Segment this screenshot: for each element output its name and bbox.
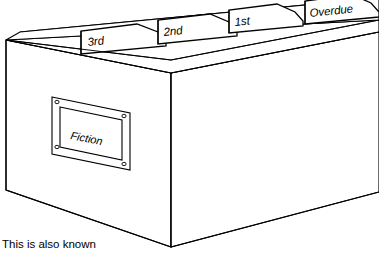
- divider-1st-label: 1st: [234, 14, 251, 28]
- divider-3rd-label: 3rd: [87, 34, 105, 48]
- file-box-drawing: 3rd 2nd 1st Overdue: [0, 0, 379, 256]
- figure-illustration: 3rd 2nd 1st Overdue: [0, 0, 379, 256]
- label-plate-screw-bottom-right: [122, 162, 126, 165]
- label-plate-screw-bottom-left: [55, 145, 59, 148]
- label-plate-screw-top-right: [122, 114, 126, 117]
- figure-caption: This is also known: [2, 237, 96, 251]
- label-plate-screw-top-left: [55, 100, 59, 103]
- divider-2nd-label: 2nd: [162, 24, 184, 38]
